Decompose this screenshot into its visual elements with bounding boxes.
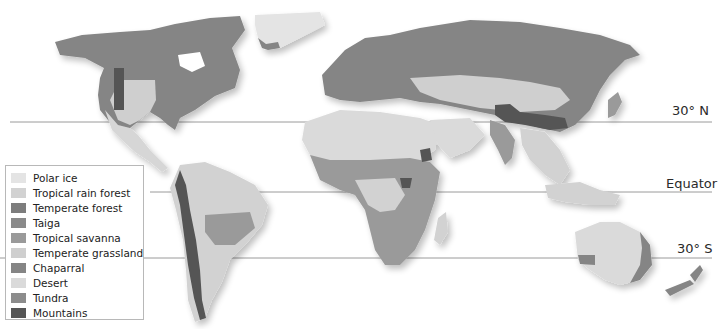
legend-label: Taiga [33, 217, 60, 229]
india [490, 120, 515, 165]
legend-label: Tundra [33, 292, 69, 304]
legend-item-desert: Desert [11, 275, 143, 290]
legend-swatch [11, 233, 26, 243]
arabia [430, 118, 485, 158]
legend-item-taiga: Taiga [11, 215, 143, 230]
legend-label: Tropical rain forest [33, 187, 130, 199]
legend-swatch [11, 248, 26, 258]
legend-item-temperate-forest: Temperate forest [11, 200, 143, 215]
legend-swatch [11, 278, 26, 288]
biome-legend: Polar ice Tropical rain forest Temperate… [5, 165, 144, 320]
legend-item-temperate-grassland: Temperate grassland [11, 245, 143, 260]
legend-label: Polar ice [33, 172, 78, 184]
latitude-label-30s: 30° S [677, 241, 712, 256]
latitude-label-equator: Equator [666, 176, 717, 191]
legend-item-chaparral: Chaparral [11, 260, 143, 275]
legend-label: Mountains [33, 307, 87, 319]
latitude-label-30n: 30° N [672, 103, 709, 118]
africa-desert [302, 110, 440, 165]
legend-label: Temperate grassland [33, 247, 143, 259]
legend-swatch [11, 293, 26, 303]
legend-swatch [11, 308, 26, 318]
north-america [55, 16, 245, 130]
na-mountains [114, 68, 124, 110]
legend-swatch [11, 218, 26, 228]
legend-swatch [11, 173, 26, 183]
se-asia [520, 128, 570, 185]
legend-swatch [11, 203, 26, 213]
new-zealand [665, 280, 694, 296]
africa-savanna [310, 155, 440, 265]
legend-label: Temperate forest [33, 202, 122, 214]
legend-label: Tropical savanna [33, 232, 121, 244]
legend-swatch [11, 188, 26, 198]
legend-swatch [11, 263, 26, 273]
legend-item-polar-ice: Polar ice [11, 170, 143, 185]
madagascar [434, 212, 448, 245]
legend-item-tropical-savanna: Tropical savanna [11, 230, 143, 245]
japan [608, 92, 622, 118]
legend-item-tropical-rain-forest: Tropical rain forest [11, 185, 143, 200]
legend-item-tundra: Tundra [11, 290, 143, 305]
legend-label: Chaparral [33, 262, 84, 274]
indonesia [545, 182, 620, 205]
legend-item-mountains: Mountains [11, 305, 143, 320]
legend-label: Desert [33, 277, 68, 289]
